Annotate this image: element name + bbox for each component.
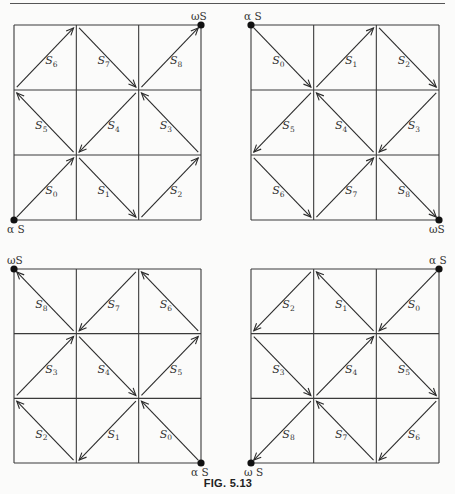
state-label: S0	[160, 428, 173, 443]
state-label: S1	[108, 428, 120, 443]
omega-node-dot	[197, 21, 204, 28]
state-label: S3	[272, 363, 285, 378]
transition-S7: S7	[316, 401, 373, 460]
arrow-line	[79, 337, 136, 396]
alpha-node-dot	[435, 265, 442, 272]
transition-S4: S4	[316, 337, 373, 396]
transition-S5: S5	[17, 93, 74, 152]
grid-bottom-right: S0S1S2S3S4S5S6S7S8α Sω S	[244, 254, 447, 478]
arrow-line	[379, 158, 436, 217]
state-label: S4	[97, 363, 110, 378]
omega-label: ωS	[191, 10, 207, 22]
grid-panels: S0S1S2S3S4S5S6S7S8α SωSS0S1S2S3S4S5S6S7S…	[7, 10, 447, 478]
transition-S1: S1	[316, 28, 373, 87]
transition-S8: S8	[254, 401, 311, 460]
arrow-line	[141, 401, 198, 460]
state-label: S4	[108, 119, 121, 134]
state-label: S1	[97, 184, 109, 199]
transition-S1: S1	[79, 401, 136, 460]
transition-S6: S6	[141, 272, 198, 331]
transition-S3: S3	[141, 93, 198, 152]
arrow-line	[379, 337, 436, 396]
grid-bottom-left: S0S1S2S3S4S5S6S7S8α SωS	[7, 254, 209, 478]
grid-top-right: S0S1S2S3S4S5S6S7S8α SωS	[244, 10, 445, 235]
state-label: S6	[45, 54, 58, 69]
state-label: S7	[97, 54, 110, 69]
state-label: S5	[170, 363, 183, 378]
omega-label: ωS	[7, 254, 23, 266]
transition-S3: S3	[254, 337, 311, 396]
state-label: S7	[335, 428, 348, 443]
arrow-line	[17, 272, 74, 331]
arrow-line	[17, 401, 74, 460]
transition-S3: S3	[17, 337, 74, 396]
arrow-line	[141, 272, 198, 331]
grid-top-left: S0S1S2S3S4S5S6S7S8α SωS	[7, 10, 207, 235]
state-label: S0	[45, 184, 58, 199]
state-label: S7	[108, 298, 121, 313]
state-label: S2	[398, 54, 411, 69]
transition-S5: S5	[141, 337, 198, 396]
state-label: S6	[272, 184, 285, 199]
arrow-line	[254, 337, 311, 396]
state-label: S8	[398, 184, 411, 199]
transition-S0: S0	[141, 401, 198, 460]
state-label: S8	[282, 428, 295, 443]
arrow-line	[316, 401, 373, 460]
arrow-line	[379, 28, 436, 87]
state-label: S1	[335, 298, 347, 313]
state-label: S2	[35, 428, 48, 443]
arrow-line	[79, 28, 136, 87]
state-label: S5	[35, 119, 48, 134]
omega-node-dot	[10, 265, 17, 272]
state-label: S3	[45, 363, 58, 378]
state-label: S6	[160, 298, 173, 313]
state-label: S1	[345, 54, 357, 69]
state-label: S8	[35, 298, 48, 313]
state-label: S5	[282, 119, 295, 134]
state-label: S4	[335, 119, 348, 134]
transition-S2: S2	[17, 401, 74, 460]
omega-label: ωS	[429, 223, 445, 235]
transition-S1: S1	[316, 272, 373, 331]
transition-S0: S0	[17, 158, 74, 217]
state-label: S7	[345, 184, 358, 199]
arrow-line	[254, 28, 311, 87]
transition-S8: S8	[17, 272, 74, 331]
transition-S6: S6	[379, 401, 436, 460]
arrow-line	[316, 272, 373, 331]
alpha-node-dot	[247, 21, 254, 28]
transition-S7: S7	[79, 272, 136, 331]
state-label: S2	[170, 184, 183, 199]
state-label: S3	[160, 119, 173, 134]
state-label: S6	[408, 428, 421, 443]
state-label: S4	[345, 363, 358, 378]
state-label: S0	[272, 54, 285, 69]
transition-S6: S6	[254, 158, 311, 217]
alpha-label: α S	[429, 254, 447, 266]
transition-S2: S2	[379, 28, 436, 87]
arrow-line	[141, 93, 198, 152]
state-label: S8	[170, 54, 183, 69]
state-label: S5	[398, 363, 411, 378]
transition-S8: S8	[141, 28, 198, 87]
transition-S7: S7	[316, 158, 373, 217]
arrow-line	[316, 93, 373, 152]
alpha-label: α S	[7, 223, 25, 235]
transition-S0: S0	[254, 28, 311, 87]
transition-S4: S4	[316, 93, 373, 152]
transition-S7: S7	[79, 28, 136, 87]
transition-S1: S1	[79, 158, 136, 217]
arrow-line	[17, 93, 74, 152]
arrow-line	[79, 158, 136, 217]
state-label: S2	[282, 298, 295, 313]
transition-S6: S6	[17, 28, 74, 87]
transition-S4: S4	[79, 93, 136, 152]
figure-5-13: S0S1S2S3S4S5S6S7S8α SωSS0S1S2S3S4S5S6S7S…	[0, 0, 455, 494]
transition-S8: S8	[379, 158, 436, 217]
transition-S0: S0	[379, 272, 436, 331]
alpha-label: α S	[244, 10, 262, 22]
figure-caption: FIG. 5.13	[204, 477, 253, 489]
transition-S5: S5	[254, 93, 311, 152]
arrow-line	[254, 158, 311, 217]
